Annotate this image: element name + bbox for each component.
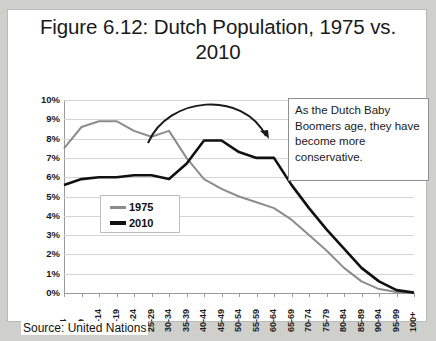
legend-label-1975: 1975 — [129, 201, 153, 213]
source-caption: Source: United Nations — [21, 321, 148, 335]
figure-frame: Figure 6.12: Dutch Population, 1975 vs. … — [7, 9, 427, 322]
screenshot-root: Figure 6.12: Dutch Population, 1975 vs. … — [0, 0, 436, 341]
annotation-callout: As the Dutch Baby Boomers age, they have… — [288, 98, 429, 181]
legend-item-2010: 2010 — [101, 215, 179, 231]
legend-label-2010: 2010 — [129, 217, 153, 229]
chart-legend: 1975 2010 — [100, 195, 180, 233]
legend-swatch-1975-icon — [110, 206, 126, 209]
legend-swatch-2010-icon — [110, 221, 126, 225]
legend-item-1975: 1975 — [101, 199, 179, 215]
